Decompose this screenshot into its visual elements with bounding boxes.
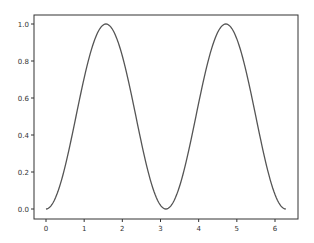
- y-tick-label: 0.2: [18, 169, 29, 177]
- y-tick-label: 0.0: [18, 206, 29, 214]
- x-tick-label: 4: [196, 225, 201, 233]
- x-tick-label: 3: [158, 225, 162, 233]
- x-tick-label: 6: [273, 225, 278, 233]
- y-tick-label: 0.6: [18, 95, 30, 103]
- y-tick-label: 0.8: [18, 58, 29, 66]
- x-axis-ticks: 0123456: [44, 219, 278, 233]
- plot-frame: [34, 15, 298, 219]
- y-tick-label: 1.0: [18, 21, 29, 29]
- y-axis-ticks: 0.00.20.40.60.81.0: [18, 21, 34, 214]
- line-chart: 0123456 0.00.20.40.60.81.0: [0, 0, 314, 243]
- x-tick-label: 0: [44, 225, 48, 233]
- series-line: [46, 24, 286, 209]
- x-tick-label: 2: [120, 225, 124, 233]
- x-tick-label: 5: [235, 225, 239, 233]
- x-tick-label: 1: [82, 225, 86, 233]
- y-tick-label: 0.4: [18, 132, 30, 140]
